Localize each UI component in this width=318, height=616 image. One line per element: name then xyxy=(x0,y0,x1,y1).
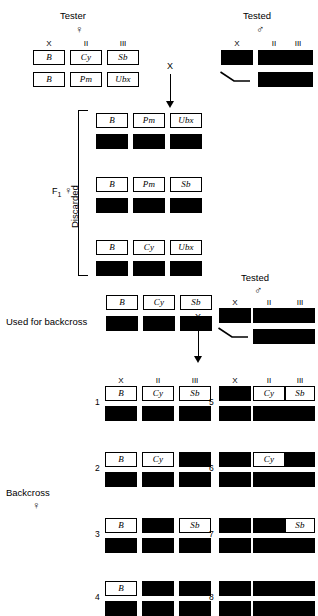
backcross-c6-bottom-iii xyxy=(285,472,315,487)
backcross-c1-top-ii: Cy xyxy=(142,386,174,401)
ufb-top-ii: Cy xyxy=(143,295,175,310)
backcross-c2-top-iii xyxy=(179,452,211,467)
f1-g3-top-iii: Ubx xyxy=(170,240,202,255)
ufb-top-x: B xyxy=(106,295,138,310)
backcross-c5-top-iii: Sb xyxy=(285,386,315,401)
cross1-symbol: X xyxy=(167,62,173,71)
backcross-c4-top-x: B xyxy=(105,581,137,596)
backcross-c7-top-ii xyxy=(253,518,285,533)
tested-top-iii xyxy=(283,50,313,65)
tested-top-sex-male-icon: ♂ xyxy=(256,24,264,35)
f1-g1-bottom-ii xyxy=(133,134,165,149)
tested-mid-iii xyxy=(285,308,315,323)
backcross-c7-top-iii: Sb xyxy=(285,518,315,533)
tested-mid-ii xyxy=(253,308,285,323)
f1-g2-top-iii: Sb xyxy=(170,177,202,192)
backcross-right-header-iii: III xyxy=(285,377,315,385)
f1-g1-bottom-x xyxy=(96,134,128,149)
backcross-c5-top-ii: Cy xyxy=(253,386,285,401)
f1-g1-top-iii: Ubx xyxy=(170,113,202,128)
cross2-arrow-line xyxy=(198,324,199,358)
f1-g3-bottom-x xyxy=(96,261,128,276)
tested-mid-label: Tested xyxy=(241,273,269,283)
backcross-c2-bottom-iii xyxy=(179,472,211,487)
backcross-c2-top-ii: Cy xyxy=(142,452,174,467)
tester-sex-female-icon: ♀ xyxy=(75,24,83,35)
backcross-class-4-number: 4 xyxy=(95,593,100,602)
tested-top-header-iii: III xyxy=(283,40,313,48)
f1-g2-top-x: B xyxy=(96,177,128,192)
backcross-c5-bottom-iii xyxy=(285,406,315,421)
backcross-c6-top-iii xyxy=(285,452,315,467)
f1-g1-top-ii: Pm xyxy=(133,113,165,128)
f1-g3-top-ii: Cy xyxy=(133,240,165,255)
backcross-c8-bottom-x xyxy=(219,601,251,616)
tester-top-ii: Cy xyxy=(70,50,102,65)
backcross-c8-top-ii xyxy=(253,581,285,596)
tested-top-label: Tested xyxy=(243,11,271,21)
tester-bottom-iii: Ubx xyxy=(107,72,139,87)
cross2-symbol: X xyxy=(195,313,201,322)
tester-top-x: B xyxy=(33,50,65,65)
backcross-class-2-number: 2 xyxy=(95,464,100,473)
backcross-right-header-ii: II xyxy=(253,377,285,385)
backcross-c1-top-iii: Sb xyxy=(179,386,211,401)
backcross-c2-top-x: B xyxy=(105,452,137,467)
tester-bottom-ii: Pm xyxy=(70,72,102,87)
backcross-c3-bottom-ii xyxy=(142,538,174,553)
f1-g3-top-x: B xyxy=(96,240,128,255)
f1-g2-bottom-ii xyxy=(133,198,165,213)
f1-g3-bottom-ii xyxy=(133,261,165,276)
tester-label: Tester xyxy=(60,11,86,21)
f1-discarded-label: Discarded xyxy=(70,185,80,228)
backcross-c7-bottom-x xyxy=(219,538,251,553)
tested-top-header-x: X xyxy=(221,40,253,48)
cross2-arrow-head xyxy=(194,356,202,363)
backcross-c1-bottom-iii xyxy=(179,406,211,421)
tested-mid-header-x: X xyxy=(219,299,251,307)
backcross-c2-bottom-ii xyxy=(142,472,174,487)
backcross-c6-top-ii: Cy xyxy=(253,452,285,467)
backcross-left-header-x: X xyxy=(105,377,137,385)
tested-mid-y-chromosome-icon xyxy=(217,326,249,341)
backcross-c4-bottom-x xyxy=(105,601,137,616)
tested-mid-header-ii: II xyxy=(253,299,285,307)
backcross-c8-top-x xyxy=(219,581,251,596)
tested-mid-x xyxy=(219,308,251,323)
tester-header-iii: III xyxy=(107,40,139,48)
f1-g2-bottom-iii xyxy=(170,198,202,213)
backcross-c6-bottom-x xyxy=(219,472,251,487)
backcross-c5-top-x xyxy=(219,386,251,401)
backcross-c4-bottom-ii xyxy=(142,601,174,616)
backcross-right-header-x: X xyxy=(219,377,251,385)
backcross-c5-bottom-x xyxy=(219,406,251,421)
backcross-c4-top-iii xyxy=(179,581,211,596)
f1-g1-top-x: B xyxy=(96,113,128,128)
f1-label-subscript: 1 xyxy=(58,191,62,198)
tested-mid-sex-male-icon: ♂ xyxy=(254,285,262,296)
backcross-c7-bottom-iii xyxy=(285,538,315,553)
backcross-class-5-number: 5 xyxy=(209,398,214,407)
backcross-class-6-number: 6 xyxy=(209,464,214,473)
backcross-c8-bottom-iii xyxy=(285,601,315,616)
backcross-class-3-number: 3 xyxy=(95,530,100,539)
tested-mid-bottom-iii xyxy=(285,329,315,344)
tested-top-y-chromosome-icon xyxy=(219,70,251,85)
backcross-class-8-number: 8 xyxy=(209,593,214,602)
backcross-c1-bottom-ii xyxy=(142,406,174,421)
backcross-c1-top-x: B xyxy=(105,386,137,401)
tester-top-iii: Sb xyxy=(107,50,139,65)
f1-g2-bottom-x xyxy=(96,198,128,213)
ufb-bottom-ii xyxy=(143,316,175,331)
backcross-c3-top-ii xyxy=(142,518,174,533)
backcross-c6-top-x xyxy=(219,452,251,467)
backcross-c4-top-ii xyxy=(142,581,174,596)
backcross-left-header-iii: III xyxy=(179,377,211,385)
f1-g2-top-ii: Pm xyxy=(133,177,165,192)
f1-g3-bottom-iii xyxy=(170,261,202,276)
tester-header-ii: II xyxy=(70,40,102,48)
backcross-c3-bottom-iii xyxy=(179,538,211,553)
backcross-c4-bottom-iii xyxy=(179,601,211,616)
used-for-backcross-label: Used for backcross xyxy=(6,317,87,327)
tested-mid-bottom-ii xyxy=(253,329,285,344)
